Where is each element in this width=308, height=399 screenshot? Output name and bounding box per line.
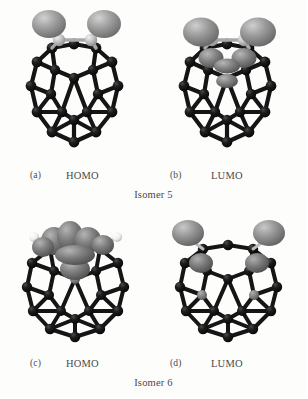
group-label-isomer-6: Isomer 6	[0, 377, 307, 388]
orbital-lobes	[32, 221, 114, 280]
caption-row-isomer-6: (c) HOMO (d) LUMO	[0, 358, 307, 374]
molecule-render-isomer5-homo	[21, 8, 133, 160]
panel-isomer6-lumo	[154, 205, 308, 357]
cropped-caption-remnant	[0, 391, 307, 399]
figure-container: (a) HOMO (b) LUMO Isomer 5	[0, 0, 307, 399]
panel-label-c: HOMO	[66, 358, 99, 369]
panel-tag-d: (d)	[170, 358, 182, 368]
panel-tag-a: (a)	[30, 170, 41, 180]
panel-isomer6-homo	[0, 205, 154, 357]
molecule-render-isomer5-lumo	[174, 8, 286, 160]
group-label-isomer-5: Isomer 5	[0, 189, 307, 200]
caption-row-isomer-5: (a) HOMO (b) LUMO	[0, 170, 307, 186]
molecule-render-isomer6-lumo	[171, 211, 289, 351]
panel-row-isomer-6	[0, 205, 307, 357]
panel-tag-b: (b)	[170, 170, 182, 180]
panel-row-isomer-5	[0, 0, 307, 168]
cage-bonds	[31, 44, 118, 142]
panel-isomer5-lumo	[154, 0, 308, 168]
panel-label-d: LUMO	[211, 358, 243, 369]
panel-isomer5-homo	[0, 0, 154, 168]
panel-label-a: HOMO	[66, 170, 99, 181]
molecule-render-isomer6-homo	[18, 211, 136, 351]
panel-label-b: LUMO	[211, 170, 243, 181]
orbital-lobes	[32, 10, 121, 38]
panel-tag-c: (c)	[30, 358, 41, 368]
